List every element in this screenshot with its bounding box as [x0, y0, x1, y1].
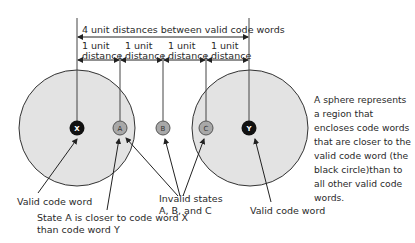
top-distance-label: 4 unit distances between valid code word…	[82, 24, 285, 36]
sphere-explanation: A sphere represents a region that enclos…	[314, 93, 414, 205]
invalid-states-label: Invalid states A, B, and C	[159, 193, 223, 217]
node-c: C	[199, 121, 213, 135]
svg-text:A: A	[118, 125, 123, 133]
node-x: X	[70, 121, 85, 136]
node-y: Y	[242, 121, 257, 136]
svg-text:Y: Y	[245, 125, 252, 133]
svg-text:C: C	[204, 125, 209, 133]
unit-label-4: 1 unitdistance	[211, 41, 251, 61]
unit-label-1: 1 unitdistance	[82, 41, 122, 61]
unit-label-3: 1 unitdistance	[168, 41, 208, 61]
node-b: B	[156, 121, 170, 135]
valid-code-word-right-label: Valid code word	[250, 205, 325, 217]
svg-text:B: B	[161, 125, 166, 133]
unit-label-2: 1 unitdistance	[125, 41, 165, 61]
valid-code-word-left-label: Valid code word	[17, 196, 92, 208]
svg-text:X: X	[74, 125, 80, 133]
node-a: A	[113, 121, 127, 135]
